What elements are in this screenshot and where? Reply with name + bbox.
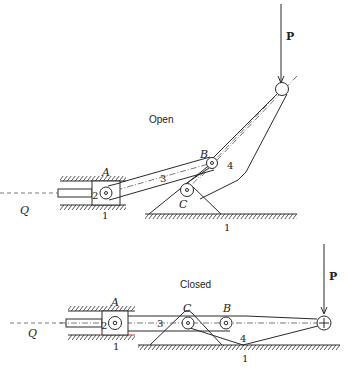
link-label-3: 3 bbox=[160, 173, 166, 184]
force-p-arrow-closed bbox=[321, 244, 327, 314]
frame-label-1-slider: 1 bbox=[102, 210, 108, 221]
input-label-q-closed: Q bbox=[28, 327, 37, 340]
ground-closed bbox=[138, 345, 340, 350]
joint-label-b-closed: B bbox=[222, 302, 231, 315]
ground-open bbox=[145, 214, 297, 219]
force-label-p: P bbox=[286, 30, 294, 43]
joint-label-a-closed: A bbox=[110, 296, 119, 309]
closed-diagram: P bbox=[10, 244, 340, 364]
frame-label-1-ground-closed: 1 bbox=[242, 353, 248, 364]
pin-a bbox=[100, 187, 112, 199]
link-label-2: 2 bbox=[92, 190, 98, 201]
input-label-q: Q bbox=[20, 204, 29, 217]
link-label-4: 4 bbox=[227, 160, 233, 171]
joint-label-a: A bbox=[101, 166, 110, 179]
link-label-3-closed: 3 bbox=[157, 318, 163, 329]
state-label-open: Open bbox=[149, 114, 173, 125]
pin-c bbox=[181, 184, 194, 197]
frame-label-1-slider-closed: 1 bbox=[113, 341, 119, 352]
force-p-arrow bbox=[278, 4, 284, 83]
joint-label-b: B bbox=[199, 148, 208, 161]
link-label-2-closed: 2 bbox=[101, 320, 107, 331]
lever-top-pin bbox=[276, 83, 289, 96]
joint-label-c: C bbox=[179, 198, 188, 211]
slider-rod-open bbox=[58, 189, 92, 197]
pin-a-closed bbox=[109, 317, 122, 330]
end-pin-closed bbox=[317, 316, 331, 330]
toggle-mechanism-diagram: P bbox=[0, 0, 348, 371]
force-label-p-closed: P bbox=[329, 270, 337, 283]
pin-b bbox=[207, 158, 218, 169]
state-label-closed: Closed bbox=[180, 279, 211, 290]
open-diagram: P bbox=[0, 4, 297, 233]
link-label-4-closed: 4 bbox=[240, 333, 246, 344]
joint-label-c-closed: C bbox=[183, 302, 192, 315]
frame-label-1-ground: 1 bbox=[224, 222, 230, 233]
pin-b-closed bbox=[220, 317, 232, 329]
pin-c-closed bbox=[182, 317, 194, 329]
